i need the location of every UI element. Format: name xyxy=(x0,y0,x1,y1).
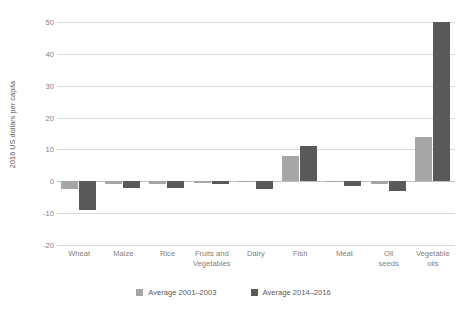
y-axis-tick-labels: 50403020100-10-20 xyxy=(28,22,54,245)
bar-group xyxy=(411,22,455,245)
x-axis-category-label-line: Oil xyxy=(367,249,411,259)
bar-group xyxy=(190,22,234,245)
x-axis-category-label: Dairy xyxy=(234,249,278,259)
x-axis-category-label-line: Fish xyxy=(278,249,322,259)
x-axis-category-label: Vegetableoils xyxy=(411,249,455,268)
bar-chart: 2016 US dollars per capita 50403020100-1… xyxy=(0,0,467,311)
y-axis-tick-label: -20 xyxy=(43,241,54,250)
bar[interactable] xyxy=(256,181,273,189)
x-axis-category-label: Rice xyxy=(145,249,189,259)
bar[interactable] xyxy=(371,181,388,184)
bar-group xyxy=(367,22,411,245)
bar-group xyxy=(322,22,366,245)
bar[interactable] xyxy=(344,181,361,186)
bar[interactable] xyxy=(282,156,299,181)
bar[interactable] xyxy=(167,181,184,187)
x-axis-category-label-line: seeds xyxy=(367,259,411,269)
bar-group xyxy=(234,22,278,245)
bars-layer xyxy=(57,22,455,245)
gridline xyxy=(57,245,455,246)
legend-label: Average 2001–2003 xyxy=(148,288,216,297)
legend-label: Average 2014–2016 xyxy=(263,288,331,297)
bar-group xyxy=(145,22,189,245)
x-axis-category-label: Fish xyxy=(278,249,322,259)
y-axis-tick-label: 30 xyxy=(46,81,54,90)
x-axis-category-label-line: oils xyxy=(411,259,455,269)
x-axis-category-labels: WheatMaizeRiceFruits andVegetablesDairyF… xyxy=(57,249,455,279)
y-axis-title-text: 2016 US dollars per capita xyxy=(9,80,18,167)
bar[interactable] xyxy=(61,181,78,189)
legend-item[interactable]: Average 2001–2003 xyxy=(136,288,216,297)
x-axis-category-label-line: Vegetables xyxy=(190,259,234,269)
x-axis-category-label-line: Rice xyxy=(145,249,189,259)
y-axis-title: 2016 US dollars per capita xyxy=(2,0,24,248)
legend-item[interactable]: Average 2014–2016 xyxy=(251,288,331,297)
legend-swatch-icon xyxy=(136,289,143,296)
x-axis-category-label: Fruits andVegetables xyxy=(190,249,234,268)
x-axis-category-label-line: Wheat xyxy=(57,249,101,259)
bar-group xyxy=(101,22,145,245)
x-axis-category-label-line: Meat xyxy=(322,249,366,259)
y-axis-tick-label: 20 xyxy=(46,113,54,122)
x-axis-category-label-line: Maize xyxy=(101,249,145,259)
x-axis-category-label-line: Vegetable xyxy=(411,249,455,259)
bar[interactable] xyxy=(300,146,317,181)
y-axis-tick-label: 10 xyxy=(46,145,54,154)
x-axis-category-label: Meat xyxy=(322,249,366,259)
legend-swatch-icon xyxy=(251,289,258,296)
bar[interactable] xyxy=(415,137,432,182)
bar[interactable] xyxy=(123,181,140,188)
bar-group xyxy=(57,22,101,245)
bar[interactable] xyxy=(326,181,343,182)
x-axis-category-label: Wheat xyxy=(57,249,101,259)
bar[interactable] xyxy=(433,22,450,181)
x-axis-category-label-line: Fruits and xyxy=(190,249,234,259)
bar[interactable] xyxy=(105,181,122,183)
bar[interactable] xyxy=(149,181,166,184)
bar-group xyxy=(278,22,322,245)
y-axis-tick-label: 0 xyxy=(50,177,54,186)
bar[interactable] xyxy=(79,181,96,210)
y-axis-tick-label: 40 xyxy=(46,49,54,58)
x-axis-category-label: Oilseeds xyxy=(367,249,411,268)
x-axis-category-label: Maize xyxy=(101,249,145,259)
bar[interactable] xyxy=(389,181,406,191)
y-axis-tick-label: 50 xyxy=(46,18,54,27)
plot-area xyxy=(57,22,455,245)
chart-legend: Average 2001–2003Average 2014–2016 xyxy=(0,288,467,297)
bar[interactable] xyxy=(212,181,229,184)
x-axis-category-label-line: Dairy xyxy=(234,249,278,259)
bar[interactable] xyxy=(238,181,255,182)
bar[interactable] xyxy=(194,181,211,182)
y-axis-tick-label: -10 xyxy=(43,209,54,218)
